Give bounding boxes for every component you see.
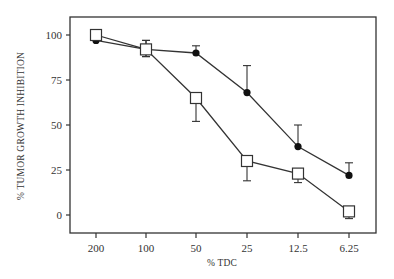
data-point-square [242, 156, 253, 167]
chart: 0255075100 200100502512.56.25 % TDC % TU… [0, 0, 394, 279]
y-tick-label: 75 [51, 74, 63, 86]
series-filled-circle [92, 37, 353, 179]
data-point-circle [345, 172, 352, 179]
y-axis: 0255075100 [46, 29, 71, 221]
x-tick-label: 12.5 [288, 242, 308, 254]
y-tick-label: 0 [57, 209, 63, 221]
series-open-square [91, 30, 355, 219]
x-tick-label: 6.25 [339, 242, 359, 254]
data-point-square [141, 44, 152, 55]
x-tick-label: 100 [138, 242, 155, 254]
y-axis-title: % TUMOR GROWTH INHIBITION [16, 52, 26, 200]
data-point-square [91, 30, 102, 41]
y-tick-label: 100 [46, 29, 63, 41]
x-axis-title: % TDC [207, 258, 237, 268]
y-tick-label: 50 [51, 119, 63, 131]
x-tick-label: 50 [191, 242, 203, 254]
data-point-square [191, 93, 202, 104]
x-tick-label: 25 [242, 242, 254, 254]
y-tick-label: 25 [51, 164, 63, 176]
data-point-circle [294, 143, 301, 150]
data-point-circle [192, 49, 199, 56]
data-point-square [293, 168, 304, 179]
plot-frame [70, 17, 376, 233]
x-axis: 200100502512.56.25 [88, 233, 359, 254]
data-point-circle [243, 89, 250, 96]
series-layer [91, 30, 355, 219]
x-tick-label: 200 [88, 242, 105, 254]
data-point-square [344, 206, 355, 217]
